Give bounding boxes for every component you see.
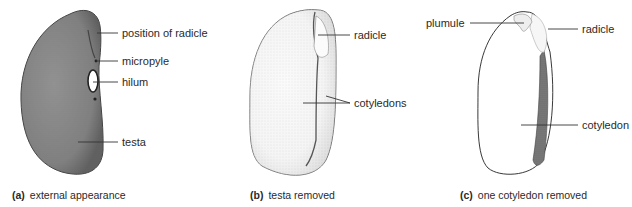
seed-external bbox=[21, 10, 103, 174]
label-radicle-b: radicle bbox=[354, 29, 386, 41]
label-radicle-c: radicle bbox=[582, 23, 614, 35]
caption-c-text: one cotyledon removed bbox=[478, 189, 587, 201]
label-plumule: plumule bbox=[426, 17, 465, 29]
caption-c-letter: (c) bbox=[460, 189, 473, 201]
caption-a: (a)external appearance bbox=[12, 189, 126, 201]
label-testa: testa bbox=[122, 136, 146, 148]
label-cotyledons: cotyledons bbox=[354, 97, 407, 109]
caption-a-text: external appearance bbox=[30, 189, 126, 201]
caption-b-letter: (b) bbox=[250, 189, 263, 201]
seed-one-cotyledon-removed bbox=[478, 12, 553, 175]
caption-a-letter: (a) bbox=[12, 189, 25, 201]
caption-b-text: testa removed bbox=[268, 189, 335, 201]
bean-seed-diagram bbox=[0, 0, 632, 207]
label-micropyle: micropyle bbox=[122, 55, 169, 67]
caption-c: (c)one cotyledon removed bbox=[460, 189, 587, 201]
seed-testa-removed bbox=[250, 10, 336, 176]
label-position-of-radicle: position of radicle bbox=[122, 27, 208, 39]
label-cotyledon: cotyledon bbox=[582, 119, 629, 131]
caption-b: (b)testa removed bbox=[250, 189, 335, 201]
hilum-scar bbox=[88, 70, 98, 92]
label-hilum: hilum bbox=[122, 76, 148, 88]
